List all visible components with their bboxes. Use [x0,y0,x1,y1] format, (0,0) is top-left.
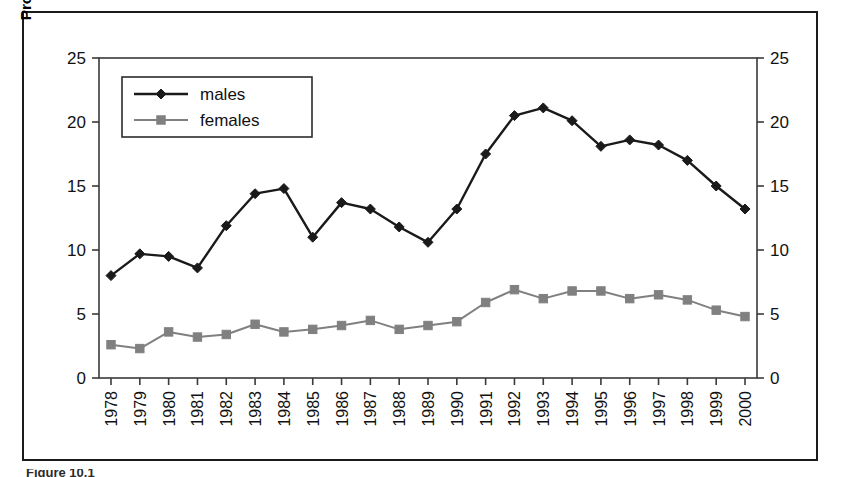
x-tick-label: 1989 [420,391,437,427]
x-tick-label: 1993 [535,391,552,427]
x-tick-label: 1996 [622,391,639,427]
y-tick-label-right: 0 [770,369,779,388]
data-point-females [193,333,201,341]
data-point-females [366,316,374,324]
y-tick-label-left: 0 [77,369,86,388]
x-tick-label: 1997 [651,391,668,427]
legend: malesfemales [122,77,312,137]
x-tick-label: 1999 [708,391,725,427]
data-point-females [453,317,461,325]
x-tick-label: 1978 [103,391,120,427]
y-axis-left: 0510152025 [67,49,99,388]
y-tick-label-right: 15 [770,177,789,196]
y-tick-label-left: 25 [67,49,86,68]
data-point-females [395,325,403,333]
data-point-females [712,306,720,314]
x-tick-label: 1980 [161,391,178,427]
figure-root: Proportion of part-time workers 05101520… [0,0,841,477]
x-tick-label: 1992 [506,391,523,427]
data-point-females [136,344,144,352]
x-tick-label: 1991 [478,391,495,427]
data-point-females [510,285,518,293]
line-chart: 0510152025051015202519781979198019811982… [0,0,841,477]
data-point-females [654,291,662,299]
x-tick-label: 1995 [593,391,610,427]
data-point-females [309,325,317,333]
series-line-females [111,290,745,349]
y-tick-label-left: 10 [67,241,86,260]
y-tick-label-left: 5 [77,305,86,324]
data-point-females [337,321,345,329]
figure-caption-fragment: Figure 10.1 [26,469,146,477]
legend-label-females: females [200,111,260,130]
x-tick-label: 1986 [334,391,351,427]
data-point-females [222,330,230,338]
data-point-males [164,251,174,261]
data-point-males [654,140,664,150]
y-tick-label-left: 15 [67,177,86,196]
data-point-females [626,294,634,302]
data-point-females [597,287,605,295]
data-point-females [481,298,489,306]
data-point-females [280,328,288,336]
data-point-males [279,184,289,194]
x-tick-label: 1984 [276,391,293,427]
x-tick-label: 1998 [679,391,696,427]
x-tick-label: 1994 [564,391,581,427]
data-point-females [164,328,172,336]
series-females [107,285,749,352]
data-point-females [568,287,576,295]
data-point-females [539,294,547,302]
data-point-females [683,296,691,304]
x-tick-label: 1988 [391,391,408,427]
y-tick-label-right: 5 [770,305,779,324]
y-tick-label-right: 10 [770,241,789,260]
x-tick-label: 1982 [218,391,235,427]
x-tick-label: 1987 [362,391,379,427]
y-tick-label-left: 20 [67,113,86,132]
x-tick-label: 1979 [132,391,149,427]
x-tick-label: 1981 [189,391,206,427]
data-point-males [625,135,635,145]
data-point-females [107,341,115,349]
y-tick-label-right: 20 [770,113,789,132]
data-point-males [538,103,548,113]
data-point-females [251,320,259,328]
x-tick-label: 2000 [737,391,754,427]
y-tick-label-right: 25 [770,49,789,68]
x-tick-label: 1983 [247,391,264,427]
x-tick-label: 1985 [305,391,322,427]
data-point-females [424,321,432,329]
data-point-females [741,312,749,320]
legend-marker-females [157,116,165,124]
y-axis-right: 0510152025 [757,49,789,388]
x-axis: 1978197919801981198219831984198519861987… [103,378,754,427]
x-tick-label: 1990 [449,391,466,427]
legend-label-males: males [200,85,245,104]
